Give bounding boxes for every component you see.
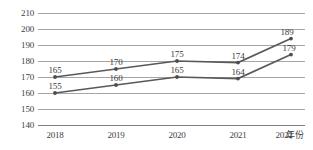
y-tick-label-140: 140: [4, 121, 34, 130]
y-tick-label-190: 190: [4, 41, 34, 50]
gridline-140-baseline: [38, 125, 305, 126]
x-axis-title: 年份: [286, 131, 304, 140]
y-tick-label-210: 210: [4, 9, 34, 18]
gridline-190: [38, 45, 305, 46]
line-chart: 210 200 190 180 170 160 150 140: [0, 0, 313, 150]
data-label-upper-2018: 165: [40, 66, 70, 75]
y-tick-label-160: 160: [4, 89, 34, 98]
y-tick-label-170: 170: [4, 73, 34, 82]
data-label-upper-2021: 174: [223, 52, 253, 61]
gridline-160: [38, 93, 305, 94]
data-label-lower-2022: 179: [274, 44, 304, 53]
data-label-upper-2022: 189: [272, 28, 302, 37]
x-tick-label-2019: 2019: [96, 131, 136, 140]
gridline-150: [38, 109, 305, 110]
data-label-upper-2020: 175: [162, 50, 192, 59]
x-tick-label-2020: 2020: [157, 131, 197, 140]
x-tick-label-2021: 2021: [218, 131, 258, 140]
gridline-180: [38, 61, 305, 62]
data-label-lower-2020: 165: [162, 66, 192, 75]
y-tick-label-150: 150: [4, 105, 34, 114]
gridline-170: [38, 77, 305, 78]
x-tick-label-2018: 2018: [35, 131, 75, 140]
data-label-upper-2019: 170: [101, 58, 131, 67]
y-tick-label-200: 200: [4, 25, 34, 34]
y-tick-label-180: 180: [4, 57, 34, 66]
data-label-lower-2019: 160: [101, 74, 131, 83]
gridline-200: [38, 29, 305, 30]
data-label-lower-2018: 155: [40, 82, 70, 91]
gridline-210: [38, 13, 305, 14]
data-label-lower-2021: 164: [223, 68, 253, 77]
